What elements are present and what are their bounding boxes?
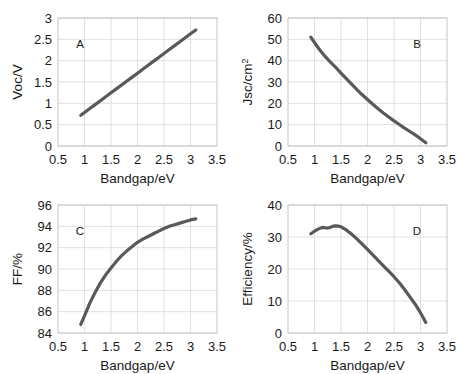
- y-axis-title: Efficiency/%: [240, 232, 255, 305]
- panel-label: C: [76, 225, 84, 237]
- x-tick-label: 3: [417, 152, 424, 167]
- panel-label: D: [413, 225, 421, 237]
- chart-panel-a: 00.511.522.530.511.522.533.5Bandgap/eVVo…: [0, 0, 230, 187]
- y-tick-label: 0.5: [34, 117, 52, 132]
- x-axis-ticks: 0.511.522.533.5: [49, 339, 226, 354]
- x-tick-label: 3: [187, 339, 194, 354]
- y-tick-label: 30: [268, 230, 282, 245]
- svg-text:FF/%: FF/%: [10, 253, 25, 285]
- x-tick-label: 3.5: [208, 152, 226, 167]
- y-tick-label: 10: [268, 117, 282, 132]
- x-tick-label: 2: [364, 339, 371, 354]
- y-tick-label: 2: [45, 53, 52, 68]
- y-tick-label: 3: [45, 11, 52, 26]
- x-tick-label: 0.5: [279, 152, 297, 167]
- y-axis-title: Jsc/cm2: [240, 58, 255, 105]
- y-tick-label: 94: [38, 219, 52, 234]
- x-tick-label: 1: [81, 152, 88, 167]
- x-tick-label: 2: [134, 152, 141, 167]
- x-axis-ticks: 0.511.522.533.5: [279, 152, 456, 167]
- panel-label: B: [413, 38, 421, 50]
- y-tick-label: 60: [268, 11, 282, 26]
- y-axis-ticks: 00.511.522.53: [34, 11, 52, 154]
- chart-panel-c: 848688909294960.511.522.533.5Bandgap/eVF…: [0, 187, 230, 374]
- x-tick-label: 0.5: [279, 339, 297, 354]
- y-tick-label: 20: [268, 96, 282, 111]
- y-tick-label: 86: [38, 304, 52, 319]
- x-tick-label: 2.5: [155, 339, 173, 354]
- y-tick-label: 96: [38, 198, 52, 213]
- x-axis-ticks: 0.511.522.533.5: [279, 339, 456, 354]
- y-tick-label: 10: [268, 294, 282, 309]
- y-tick-label: 1.5: [34, 75, 52, 90]
- x-axis-title: Bandgap/eV: [330, 358, 404, 373]
- x-tick-label: 3: [187, 152, 194, 167]
- y-axis-ticks: 0102030405060: [268, 11, 282, 154]
- x-tick-label: 2: [134, 339, 141, 354]
- y-tick-label: 88: [38, 283, 52, 298]
- four-panel-figure: 00.511.522.530.511.522.533.5Bandgap/eVVo…: [0, 0, 460, 374]
- y-tick-label: 30: [268, 75, 282, 90]
- y-axis-title: FF/%: [10, 253, 25, 285]
- y-tick-label: 92: [38, 240, 52, 255]
- x-tick-label: 1.5: [102, 152, 120, 167]
- x-axis-title: Bandgap/eV: [100, 171, 174, 186]
- y-tick-label: 40: [268, 53, 282, 68]
- y-tick-label: 2.5: [34, 32, 52, 47]
- svg-text:Efficiency/%: Efficiency/%: [240, 232, 255, 305]
- x-tick-label: 0.5: [49, 152, 67, 167]
- y-tick-label: 40: [268, 198, 282, 213]
- svg-text:Voc/V: Voc/V: [10, 64, 25, 99]
- y-tick-label: 1: [45, 96, 52, 111]
- x-tick-label: 2.5: [385, 339, 403, 354]
- x-axis-title: Bandgap/eV: [100, 358, 174, 373]
- y-tick-label: 20: [268, 262, 282, 277]
- y-tick-label: 50: [268, 32, 282, 47]
- x-tick-label: 3.5: [438, 339, 456, 354]
- x-axis-ticks: 0.511.522.533.5: [49, 152, 226, 167]
- x-tick-label: 1: [311, 339, 318, 354]
- x-tick-label: 3.5: [438, 152, 456, 167]
- y-axis-ticks: 010203040: [268, 198, 282, 341]
- x-tick-label: 1.5: [102, 339, 120, 354]
- x-tick-label: 3: [417, 339, 424, 354]
- y-axis-ticks: 84868890929496: [38, 198, 52, 341]
- x-tick-label: 2.5: [155, 152, 173, 167]
- svg-text:Jsc/cm2: Jsc/cm2: [240, 58, 255, 105]
- x-axis-title: Bandgap/eV: [330, 171, 404, 186]
- y-axis-title: Voc/V: [10, 64, 25, 99]
- y-tick-label: 90: [38, 262, 52, 277]
- x-tick-label: 3.5: [208, 339, 226, 354]
- x-tick-label: 2.5: [385, 152, 403, 167]
- chart-panel-d: 0102030400.511.522.533.5Bandgap/eVEffici…: [230, 187, 460, 374]
- x-tick-label: 1: [311, 152, 318, 167]
- x-tick-label: 1.5: [332, 339, 350, 354]
- x-tick-label: 2: [364, 152, 371, 167]
- chart-panel-b: 01020304050600.511.522.533.5Bandgap/eVJs…: [230, 0, 460, 187]
- panel-label: A: [76, 38, 84, 50]
- x-tick-label: 0.5: [49, 339, 67, 354]
- x-tick-label: 1: [81, 339, 88, 354]
- x-tick-label: 1.5: [332, 152, 350, 167]
